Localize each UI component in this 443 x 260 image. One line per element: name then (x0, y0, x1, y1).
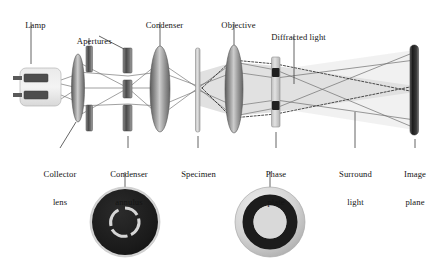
label-lamp: Lamp (8, 12, 54, 40)
label-collector-lens-line2: lens (32, 198, 88, 207)
label-surround-light-line1: Surround (328, 170, 383, 179)
label-image-plane-line2: plane (393, 198, 437, 207)
objective-lens (225, 45, 243, 133)
condenser-annulus-top-bar (123, 48, 132, 73)
label-image-plane: Image plane (393, 151, 437, 226)
phase-plate-assembly (272, 57, 281, 127)
condenser-lens (150, 46, 170, 132)
label-diffracted-light: Diffracted light (257, 24, 331, 52)
label-objective-text: Objective (221, 20, 255, 30)
phase-ring-lower (272, 101, 280, 110)
label-condenser-annulus-line1: Condenser (100, 170, 158, 179)
lamp-lead-lower (13, 93, 22, 97)
lamp-filament-upper (24, 74, 48, 82)
label-specimen: Specimen (171, 151, 226, 198)
leader-collector-lens (60, 122, 76, 148)
label-apertures: Apertures (62, 28, 118, 56)
lamp-filament-lower (24, 91, 48, 99)
label-surround-light: Surround light (328, 151, 383, 226)
ray-c3 (78, 72, 160, 76)
condenser-annulus-bars (123, 48, 132, 131)
label-condenser-annulus-line2: annulus (100, 198, 158, 207)
label-specimen-line1: Specimen (171, 170, 226, 179)
label-phase-plate: Phase plate (253, 151, 299, 226)
phase-plate-slab (272, 57, 281, 127)
label-apertures-text: Apertures (77, 36, 112, 46)
phase-contrast-diagram: Lamp Apertures Condenser Objective Diffr… (0, 0, 443, 260)
image-plane-screen (410, 45, 419, 135)
condenser-annulus-mid-bar (123, 80, 132, 98)
label-lamp-text: Lamp (25, 20, 45, 30)
lamp-lead-upper (13, 76, 22, 80)
label-surround-light-line2: light (328, 198, 383, 207)
label-phase-plate-line2: plate (253, 198, 299, 207)
aperture-lower-bar (86, 105, 93, 131)
label-collector-lens-line1: Collector (32, 170, 88, 179)
label-diffracted-light-text: Diffracted light (271, 32, 326, 42)
lamp-housing (20, 68, 61, 106)
label-phase-plate-line1: Phase (253, 170, 299, 179)
specimen-slab (196, 48, 201, 132)
phase-ring-upper (272, 68, 280, 77)
label-condenser-annulus: Condenser annulus (100, 151, 158, 226)
condenser-annulus-bottom-bar (123, 105, 132, 131)
lamp-assembly (13, 68, 61, 106)
collector-lens (72, 54, 85, 122)
label-image-plane-line1: Image (393, 170, 437, 179)
aperture-pair (86, 46, 93, 131)
beam-surround-cone-2 (276, 50, 415, 130)
label-condenser-text: Condenser (146, 20, 184, 30)
label-objective: Objective (208, 12, 260, 40)
label-collector-lens: Collector lens (32, 151, 88, 226)
label-condenser: Condenser (132, 12, 188, 40)
